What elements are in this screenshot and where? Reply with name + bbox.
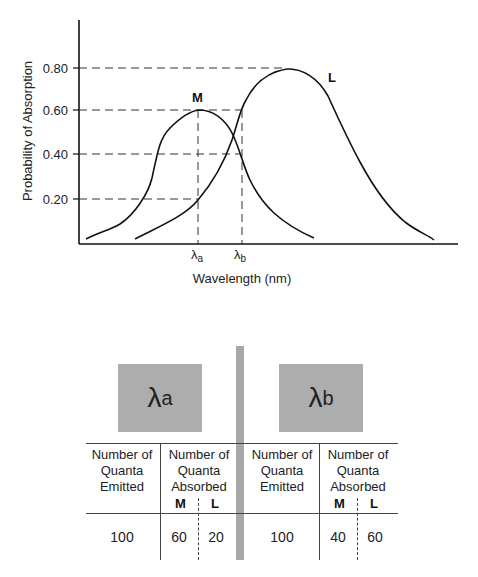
header-line: Number of xyxy=(84,447,160,463)
y-axis-label: Probability of Absorption xyxy=(20,61,35,201)
table-top-line xyxy=(86,443,398,444)
ytick-020: 0.20 xyxy=(43,192,68,207)
left-l-label: L xyxy=(211,496,219,511)
lambda-a-subscript: a xyxy=(161,387,172,410)
header-line: Quanta xyxy=(319,463,397,479)
ytick-060: 0.60 xyxy=(43,103,68,118)
lambda-a-box: λa xyxy=(118,364,202,432)
header-line: Quanta xyxy=(244,463,320,479)
header-line: Number of xyxy=(319,447,397,463)
left-ml-divider xyxy=(198,498,199,560)
header-line: Absorbed xyxy=(160,479,238,495)
lambda-a-marker: λa xyxy=(191,247,204,264)
left-emitted-header: Number of Quanta Emitted xyxy=(84,447,160,495)
header-line: Quanta xyxy=(160,463,238,479)
header-line: Number of xyxy=(244,447,320,463)
right-absorbed-l-value: 60 xyxy=(362,529,388,545)
right-absorbed-m-value: 40 xyxy=(325,529,351,545)
left-absorbed-m-value: 60 xyxy=(166,529,192,545)
header-line: Quanta xyxy=(84,463,160,479)
ytick-080: 0.80 xyxy=(43,61,68,76)
right-m-label: M xyxy=(334,496,345,511)
right-l-label: L xyxy=(370,496,378,511)
ytick-040: 0.40 xyxy=(43,147,68,162)
left-emitted-value: 100 xyxy=(84,529,160,545)
left-absorbed-header: Number of Quanta Absorbed xyxy=(160,447,238,495)
m-curve-label: M xyxy=(192,90,203,105)
m-curve xyxy=(86,110,314,239)
right-ml-divider xyxy=(357,498,358,560)
guide-lines xyxy=(79,68,285,244)
left-absorbed-l-value: 20 xyxy=(203,529,229,545)
table-header-line xyxy=(86,513,398,514)
right-emitted-value: 100 xyxy=(244,529,320,545)
right-emitted-header: Number of Quanta Emitted xyxy=(244,447,320,495)
lambda-b-symbol: λ xyxy=(308,382,322,414)
x-axis-label: Wavelength (nm) xyxy=(193,271,292,286)
right-absorbed-header: Number of Quanta Absorbed xyxy=(319,447,397,495)
header-line: Emitted xyxy=(84,479,160,495)
absorption-graph: 0.80 0.60 0.40 0.20 Probability of Absor… xyxy=(0,0,478,300)
l-curve-label: L xyxy=(328,70,336,85)
header-line: Absorbed xyxy=(319,479,397,495)
header-line: Emitted xyxy=(244,479,320,495)
lambda-b-box: λb xyxy=(279,364,363,432)
lambda-b-marker: λb xyxy=(234,247,247,264)
header-line: Number of xyxy=(160,447,238,463)
lambda-a-symbol: λ xyxy=(147,382,161,414)
left-m-label: M xyxy=(175,496,186,511)
lambda-b-subscript: b xyxy=(322,387,333,410)
l-curve xyxy=(135,69,434,240)
